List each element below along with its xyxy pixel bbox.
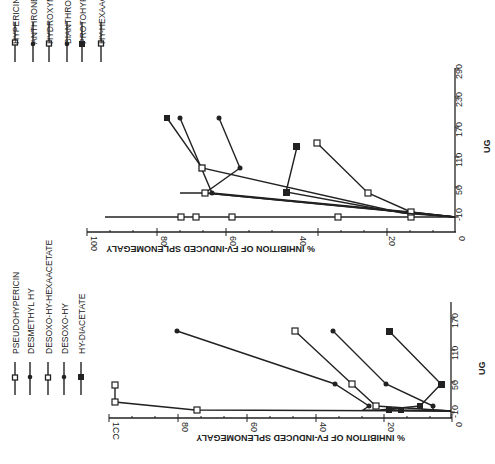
legend-item-desoxo-hy: DESOXO-HY xyxy=(60,303,70,395)
tick-label: 50 xyxy=(450,380,460,390)
tick-label: 60 xyxy=(249,422,259,432)
y-axis-title: % INHIBITION OF FV-INDUCED SPLENOMEGALY xyxy=(196,433,405,443)
tick-label: 0 xyxy=(454,422,464,427)
filled-square-marker-icon xyxy=(78,374,84,380)
series-desmethyl-hy xyxy=(177,331,451,411)
legend-label: HYDROXYMETHYLANTHRAQUINONE xyxy=(45,0,55,44)
lower-series xyxy=(112,328,451,413)
tick-label: 50 xyxy=(454,185,464,195)
lower-legend: PSEUDOHYPERICIN DESMETHYL HY DESOXO-HY-H… xyxy=(11,240,87,395)
tick-label: 100 xyxy=(89,236,99,251)
tick-label: 110 xyxy=(450,346,460,360)
legend-item-desoxo-hy-hexaacetate: DESOXO-HY-HEXAACETATE xyxy=(44,240,54,395)
legend-label: DESOXO-HY-HEXAACETATE xyxy=(44,240,54,354)
legend-item-protohypericon: PROTOHYPERICON xyxy=(78,0,88,62)
tick-label: 290 xyxy=(454,64,464,79)
figure: HYPERICIN ANTHRONE HYDROXYMETHYLANTHRAQU… xyxy=(0,0,495,464)
tick-label: 110 xyxy=(454,153,464,167)
lower-percent-axis: 1CC 80 60 40 20 0 % INHIBITION OF FV-IND… xyxy=(109,414,464,443)
legend-item-anthrone: ANTHRONE xyxy=(29,0,39,62)
tick-label: 170 xyxy=(454,122,464,137)
tick-label: 170 xyxy=(450,313,460,328)
tick-label: 230 xyxy=(454,92,464,107)
legend-item-bianthrone: BIANTHRONE xyxy=(63,0,73,62)
legend-label: PROTOHYPERICON xyxy=(78,0,88,44)
tick-label: 20 xyxy=(387,236,397,246)
diamond-marker-icon xyxy=(62,375,67,380)
tick-label: 20 xyxy=(386,422,396,432)
upper-series xyxy=(105,115,455,220)
legend-label: DESOXO-HY xyxy=(60,303,70,354)
lower-ug-axis: -10 50 110 170 UG xyxy=(450,302,487,418)
diamond-marker-icon xyxy=(28,375,33,380)
tick-label: 80 xyxy=(180,422,190,432)
upper-chart: HYPERICIN ANTHRONE HYDROXYMETHYLANTHRAQU… xyxy=(11,0,492,254)
legend-label: HY-DIACETATE xyxy=(77,293,87,354)
tick-label: 0 xyxy=(457,236,467,241)
legend-item-hy-hexaacetate: HY-HEXAACETATE xyxy=(97,0,107,62)
legend-label: BIANTHRONE xyxy=(63,0,73,44)
tick-label: 1CC xyxy=(111,422,121,441)
series-hy-diacetate xyxy=(380,331,451,411)
legend-label: DESMETHYL HY xyxy=(26,288,36,354)
lower-chart: PSEUDOHYPERICIN DESMETHYL HY DESOXO-HY-H… xyxy=(11,240,487,443)
dotted-square-marker-icon xyxy=(13,375,18,380)
tick-label: -10 xyxy=(454,208,464,221)
series-bianthrone xyxy=(205,168,455,217)
legend-item-pseudohypericin: PSEUDOHYPERICIN xyxy=(11,272,21,395)
y-axis-title: % INHIBITION OF FV-INDUCED SPLENOMEGALY xyxy=(106,244,315,254)
legend-label: HY-HEXAACETATE xyxy=(97,0,107,44)
upper-ug-axis: -10 50 110 170 230 290 UG xyxy=(454,64,492,232)
legend-label: PSEUDOHYPERICIN xyxy=(11,272,21,354)
tick-label: -10 xyxy=(450,405,460,418)
legend-item-desmethyl-hy: DESMETHYL HY xyxy=(26,288,36,395)
x-axis-title: UG xyxy=(482,140,492,154)
tick-label: 40 xyxy=(318,422,328,432)
legend-label: ANTHRONE xyxy=(29,0,39,44)
upper-legend: HYPERICIN ANTHRONE HYDROXYMETHYLANTHRAQU… xyxy=(11,0,107,62)
legend-label: HYPERICIN xyxy=(11,0,21,44)
legend-item-hydroxymethylanthraquinone: HYDROXYMETHYLANTHRAQUINONE xyxy=(45,0,55,62)
dotted-square-marker-icon xyxy=(46,375,51,380)
legend-item-hy-diacetate: HY-DIACETATE xyxy=(77,293,87,395)
series-bianthrone-end xyxy=(219,118,240,168)
legend-item-hypericin: HYPERICIN xyxy=(11,0,21,62)
upper-percent-axis: 100 80 60 40 20 0 % INHIBITION OF FV-IND… xyxy=(87,228,467,254)
x-axis-title: UG xyxy=(477,362,487,376)
series-anthrone xyxy=(180,118,455,217)
series-desoxo-hy xyxy=(333,331,451,411)
